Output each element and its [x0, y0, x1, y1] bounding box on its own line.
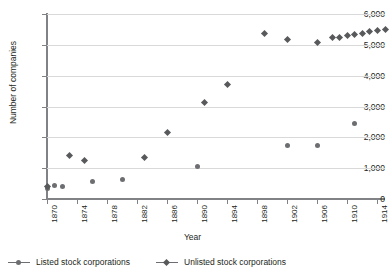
- gridline: [47, 14, 385, 15]
- x-tick-mark: [287, 200, 288, 204]
- data-point: [66, 152, 73, 159]
- x-tick-mark: [377, 200, 378, 204]
- x-tick-label: 1894: [231, 205, 239, 223]
- data-point: [90, 179, 95, 184]
- x-tick-mark: [227, 200, 228, 204]
- gridline: [47, 137, 385, 138]
- x-tick-label: 1910: [351, 205, 359, 223]
- data-point: [164, 129, 171, 136]
- data-point: [141, 154, 148, 161]
- legend-item[interactable]: Unlisted stock corporations: [156, 258, 286, 267]
- data-point: [285, 143, 290, 148]
- data-point: [366, 28, 373, 35]
- x-tick-label: 1874: [81, 205, 89, 223]
- data-point: [336, 34, 343, 41]
- circle-marker-icon: [8, 258, 30, 267]
- x-tick-label: 1902: [291, 205, 299, 223]
- x-tick-label: 1870: [51, 205, 59, 223]
- legend-item-label: Listed stock corporations: [36, 258, 130, 267]
- data-point: [351, 31, 358, 38]
- data-point: [359, 30, 366, 37]
- data-point: [284, 36, 291, 43]
- x-tick-mark: [197, 200, 198, 204]
- data-point: [261, 30, 268, 37]
- x-tick-mark: [47, 200, 48, 204]
- gridline: [47, 168, 385, 169]
- data-point: [352, 121, 357, 126]
- x-tick-label: 1878: [111, 205, 119, 223]
- x-axis-title: Year: [0, 233, 385, 242]
- x-tick-mark: [77, 200, 78, 204]
- x-tick-mark: [107, 200, 108, 204]
- x-tick-label: 1898: [261, 205, 269, 223]
- legend-item-label: Unlisted stock corporations: [184, 258, 286, 267]
- x-tick-label: 1906: [321, 205, 329, 223]
- x-tick-mark: [257, 200, 258, 204]
- x-tick-mark: [347, 200, 348, 204]
- data-point: [81, 157, 88, 164]
- x-tick-mark: [167, 200, 168, 204]
- x-tick-label: 1890: [201, 205, 209, 223]
- data-point: [374, 26, 381, 33]
- x-tick-label: 1914: [381, 205, 389, 223]
- x-tick-mark: [317, 200, 318, 204]
- data-point: [52, 183, 57, 188]
- data-point: [315, 143, 320, 148]
- chart-legend: Listed stock corporationsUnlisted stock …: [0, 252, 385, 272]
- gridline: [47, 107, 385, 108]
- data-point: [60, 184, 65, 189]
- gridline: [47, 76, 385, 77]
- gridline: [47, 45, 385, 46]
- data-point: [43, 183, 50, 190]
- data-point: [224, 81, 231, 88]
- data-point: [120, 177, 125, 182]
- y-axis-title: Number of companies: [9, 23, 18, 143]
- data-point: [344, 32, 351, 39]
- x-tick-label: 1882: [141, 205, 149, 223]
- data-point: [329, 34, 336, 41]
- x-tick-label: 1886: [171, 205, 179, 223]
- legend-item[interactable]: Listed stock corporations: [8, 258, 130, 267]
- data-point: [201, 99, 208, 106]
- x-tick-mark: [137, 200, 138, 204]
- data-point: [381, 26, 388, 33]
- plot-area: [47, 14, 385, 199]
- diamond-marker-icon: [156, 258, 178, 267]
